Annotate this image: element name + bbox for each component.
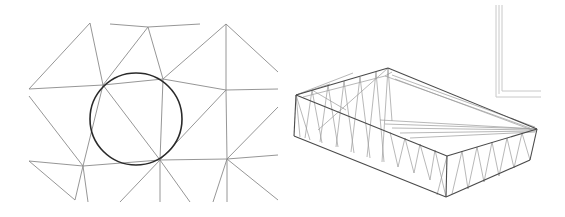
wall-strut	[437, 156, 447, 195]
wall-strut	[405, 138, 414, 173]
wall-strut	[328, 85, 338, 147]
mesh-edge	[148, 27, 163, 79]
wireframe-box	[294, 68, 537, 197]
mesh-edge	[160, 159, 227, 160]
wall-strut	[390, 132, 398, 167]
mesh-edge	[226, 24, 278, 72]
wall-strut	[452, 151, 462, 194]
wall-strut	[522, 133, 530, 160]
circumcircle	[90, 73, 182, 165]
mesh-edge	[83, 85, 103, 166]
wall-strut	[514, 133, 522, 168]
wall-strut	[462, 151, 468, 189]
triangle-mesh	[29, 23, 278, 202]
outline-edge	[294, 136, 446, 197]
figure-svg	[0, 0, 565, 217]
mesh-edge	[163, 79, 226, 90]
mesh-edge	[160, 79, 163, 160]
mesh-edge	[110, 24, 148, 27]
mesh-edge	[103, 27, 148, 85]
wall-strut	[468, 147, 477, 189]
wall-strut	[351, 77, 360, 152]
corner-frame	[496, 5, 541, 97]
wall-strut	[477, 147, 484, 182]
outline-edge	[294, 95, 296, 136]
mesh-edge	[227, 155, 278, 159]
mesh-edge	[226, 89, 278, 90]
mesh-edge	[90, 23, 103, 85]
wall-strut	[492, 142, 499, 176]
mesh-edge	[213, 159, 227, 202]
mesh-edge	[163, 24, 226, 79]
mesh-edge	[226, 90, 227, 159]
wall-strut	[484, 142, 492, 182]
mesh-edge	[29, 161, 83, 166]
outline-edge	[530, 129, 537, 160]
mesh-edge	[148, 24, 200, 27]
mesh-edge	[75, 166, 83, 200]
mesh-edge	[160, 160, 190, 202]
mesh-edge	[29, 161, 75, 200]
mesh-edge	[227, 159, 278, 200]
wall-strut	[414, 144, 420, 173]
wall-strut	[388, 68, 392, 121]
wall-strut	[507, 138, 514, 168]
wall-strut	[367, 72, 376, 157]
wall-strut	[312, 90, 322, 143]
wall-strut	[305, 90, 312, 138]
mesh-edge	[29, 23, 90, 89]
mesh-edge	[120, 160, 160, 202]
wall-strut	[382, 68, 388, 162]
mesh-edge	[227, 107, 278, 159]
mesh-edge	[103, 85, 160, 160]
wall-strut	[398, 138, 405, 167]
wall-strut	[435, 150, 446, 197]
mesh-edge	[29, 85, 103, 89]
wall-strut	[420, 144, 430, 180]
figure-canvas	[0, 0, 565, 217]
wall-strut	[430, 150, 435, 180]
wall-strut	[320, 85, 328, 142]
mesh-edge	[29, 96, 83, 166]
outline-edge	[447, 129, 537, 156]
outline-edge	[446, 156, 447, 197]
mesh-edge	[83, 166, 88, 202]
inner-edge	[303, 76, 385, 97]
outline-edge	[388, 68, 537, 129]
wall-strut	[318, 68, 388, 130]
